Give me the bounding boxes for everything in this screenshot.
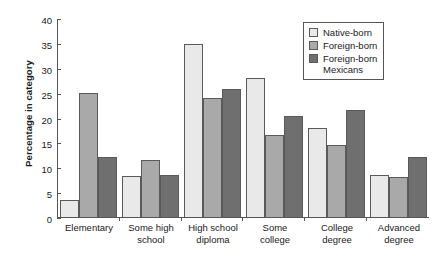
- legend-label: Foreign-born Mexicans: [323, 53, 377, 75]
- bar: [141, 160, 160, 217]
- legend-swatch-foreign-born-mexicans: [309, 54, 318, 63]
- bar-group: [243, 19, 305, 217]
- y-axis-tick-label: 15: [41, 139, 57, 150]
- y-axis-tick: 20: [41, 110, 57, 128]
- legend-swatch-foreign-born: [309, 41, 318, 50]
- bar: [60, 200, 79, 217]
- y-axis-tick-label: 35: [41, 40, 57, 51]
- y-axis-tick: 30: [41, 60, 57, 78]
- x-axis-category-label: Elementary: [58, 222, 120, 245]
- bar: [408, 157, 427, 217]
- y-axis-tick-label: 20: [41, 115, 57, 126]
- x-axis-tick-mark: [181, 217, 182, 221]
- y-axis-tick: 10: [41, 159, 57, 177]
- y-axis-tick: 40: [41, 10, 57, 28]
- bar: [327, 145, 346, 217]
- bar: [346, 110, 365, 217]
- x-axis-category-label: Collegedegree: [306, 222, 368, 245]
- bar: [184, 44, 203, 217]
- y-axis-tick-label: 25: [41, 90, 57, 101]
- legend: Native-born Foreign-born Foreign-born Me…: [303, 22, 384, 80]
- y-axis-tick-label: 0: [47, 214, 57, 225]
- bar: [203, 98, 222, 217]
- bar: [122, 176, 141, 217]
- y-axis-tick: 0: [47, 209, 57, 227]
- x-axis-category-label: Somecollege: [244, 222, 306, 245]
- legend-swatch-native-born: [309, 28, 318, 37]
- bar-chart: Percentage in category 0510152025303540 …: [0, 0, 439, 278]
- bar: [222, 89, 241, 217]
- y-axis-tick: 15: [41, 134, 57, 152]
- x-axis-tick-mark: [119, 217, 120, 221]
- y-axis-tick-label: 40: [41, 15, 57, 26]
- y-axis-title: Percentage in category: [23, 24, 34, 204]
- bar: [370, 175, 389, 217]
- y-axis-tick-label: 5: [47, 189, 57, 200]
- x-axis-labels: ElementarySome highschoolHigh schooldipl…: [58, 222, 430, 245]
- legend-item: Native-born: [309, 27, 377, 38]
- x-axis-category-label: Some highschool: [120, 222, 182, 245]
- bar: [79, 93, 98, 217]
- x-axis-tick-mark: [366, 217, 367, 221]
- y-axis-tick: 5: [47, 184, 57, 202]
- bar: [160, 175, 179, 217]
- bar: [308, 128, 327, 217]
- y-axis-tick-label: 10: [41, 164, 57, 175]
- bar: [284, 116, 303, 217]
- bar: [265, 135, 284, 217]
- y-axis-tick: 25: [41, 85, 57, 103]
- legend-item: Foreign-born Mexicans: [309, 53, 377, 75]
- bar: [98, 157, 117, 217]
- x-axis-tick-mark: [242, 217, 243, 221]
- bar: [246, 78, 265, 217]
- x-axis-tick-mark: [304, 217, 305, 221]
- y-axis-tick: 35: [41, 35, 57, 53]
- x-axis-category-label: High schooldiploma: [182, 222, 244, 245]
- legend-label: Native-born: [323, 27, 372, 38]
- x-axis-category-label: Advanceddegree: [368, 222, 430, 245]
- y-axis-tick-label: 30: [41, 65, 57, 76]
- bar-group: [182, 19, 244, 217]
- bar-group: [58, 19, 120, 217]
- legend-item: Foreign-born: [309, 40, 377, 51]
- legend-label: Foreign-born: [323, 40, 377, 51]
- y-axis-tick-mark: [57, 218, 61, 219]
- bar: [389, 177, 408, 217]
- bar-group: [120, 19, 182, 217]
